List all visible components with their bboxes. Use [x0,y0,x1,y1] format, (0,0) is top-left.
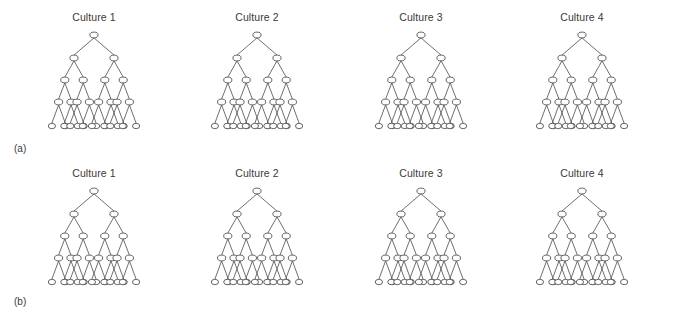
tree-node [583,99,591,105]
tree-node [573,255,581,261]
tree-node [406,77,414,83]
panel-label-b: (b) [14,296,26,307]
tree-edge [605,105,612,123]
tree-node [70,55,78,61]
tree-edge [83,105,90,123]
tree-edge [280,83,286,99]
panel-a: Culture 1Culture 2Culture 3Culture 4(a) [14,11,628,154]
culture-title: Culture 2 [235,167,279,179]
tree-edge [444,105,451,123]
tree-edge [552,105,559,123]
tree-node [288,255,296,261]
tree-edge [558,261,565,279]
tree-edge [553,239,559,255]
tree-edge [273,105,280,123]
tree-leaf-node [270,123,277,128]
tree-edge [437,105,444,123]
tree-edge [228,61,237,77]
tree-edge [286,239,292,255]
tree-node [417,32,425,38]
tree-edge [562,194,582,211]
tree-node [543,255,551,261]
tree-edge [401,194,421,211]
tree-node [224,233,232,239]
tree-edge [605,261,612,279]
tree-node [558,55,566,61]
tree-edge [431,261,438,279]
tree-edge [99,105,106,123]
tree-node [95,99,103,105]
tree-leaf-node [230,279,237,284]
tree-leaf-node [67,123,74,128]
tree-edge [77,261,84,279]
tree-edge [280,105,287,123]
tree-node [607,77,615,83]
tree-leaf-node [406,123,413,128]
tree-edge [77,105,84,123]
tree-edge [71,261,78,279]
tree-edge [426,105,433,123]
tree-edge [114,61,123,77]
tree-leaf-node [415,123,422,128]
tree-edge [553,83,559,99]
tree-edge [110,105,117,123]
tree-edge [547,105,554,123]
tree-edge [553,61,562,77]
tree-leaf-node [88,123,95,128]
culture-title: Culture 1 [72,167,116,179]
tree-node [253,32,261,38]
tree-edge [99,239,105,255]
tree-node [422,99,430,105]
tree-leaf-node [446,279,453,284]
tree-edge [64,105,71,123]
tree-edge [277,217,286,233]
tree-node [446,77,454,83]
tree-node [446,233,454,239]
tree-edge [565,83,571,99]
tree-edge [234,105,241,123]
tree-edge [456,105,463,123]
culture-title: Culture 4 [560,11,604,23]
tree-edge [593,61,602,77]
tree-node [382,255,390,261]
tree-node [242,233,250,239]
tree-node [452,99,460,105]
tree-leaf-node [460,123,467,128]
tree-edge [426,261,433,279]
tree-edge [222,83,228,99]
tree-edge [547,261,554,279]
tree-node [101,233,109,239]
tree-edge [105,83,111,99]
tree-node [428,233,436,239]
tree-edge [117,239,123,255]
tree-edge [257,194,277,211]
tree-edge [233,105,240,123]
tree-edge [401,61,410,77]
tree-node [567,77,575,83]
tree-edge [74,194,94,211]
tree-edge [404,105,411,123]
tree-edge [441,61,450,77]
tree-edge [222,261,229,279]
tree-a-4: Culture 4 [536,11,627,129]
tree-leaf-node [251,123,258,128]
tree-edge [237,194,257,211]
tree-leaf-node [242,123,249,128]
tree-edge [426,83,432,99]
tree-leaf-node [567,279,574,284]
tree-node [55,99,63,105]
tree-edge [571,105,578,123]
tree-edge [565,239,571,255]
tree-node [282,77,290,83]
tree-node [90,188,98,194]
tree-edge [611,83,617,99]
tree-node [573,99,581,105]
tree-b-4: Culture 4 [536,167,627,285]
tree-edge [392,61,401,77]
tree-edge [540,105,547,123]
tree-edge [104,105,111,123]
tree-edge [432,83,438,99]
tree-edge [391,105,398,123]
tree-node [218,99,226,105]
tree-node [382,99,390,105]
